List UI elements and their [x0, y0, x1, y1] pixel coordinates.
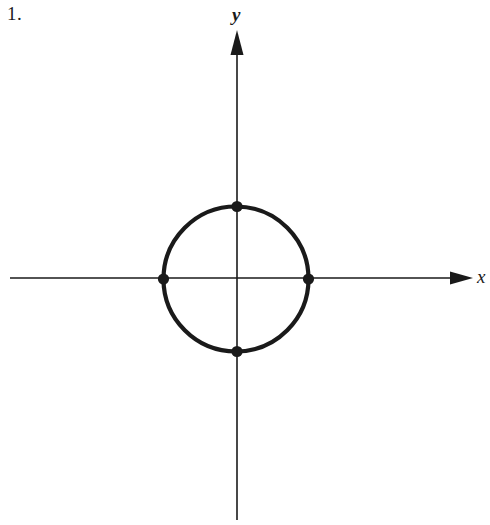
- y-axis-label: y: [232, 5, 240, 24]
- axes-group: [10, 30, 473, 520]
- point-marker-top: [231, 201, 242, 212]
- point-marker-bottom: [231, 346, 242, 357]
- marked-points-group: [158, 201, 314, 357]
- y-axis-arrowhead-icon: [231, 30, 244, 55]
- circle-curve-group: [164, 207, 309, 352]
- point-marker-right: [303, 273, 314, 284]
- figure-container: 1. y x: [0, 0, 490, 525]
- x-axis-arrowhead-icon: [450, 272, 473, 285]
- coordinate-plane-figure: [0, 0, 490, 525]
- unit-circle-curve: [164, 207, 309, 352]
- x-axis-label: x: [477, 267, 485, 286]
- point-marker-left: [158, 273, 169, 284]
